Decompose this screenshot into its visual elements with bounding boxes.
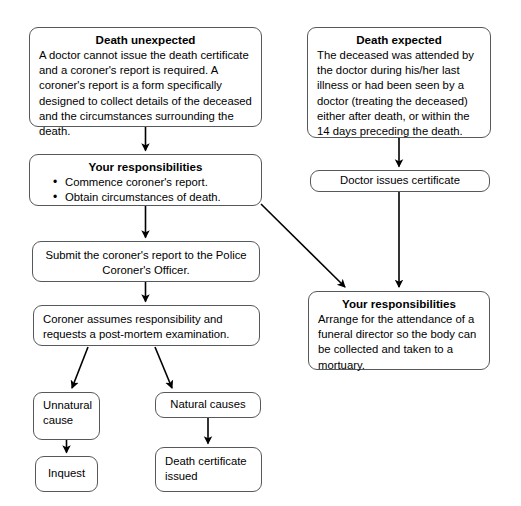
node-natural-causes-body: Natural causes [162,397,254,412]
node-death-expected: Death expected The deceased was attended… [307,27,491,138]
node-responsibilities-right-body: Arrange for the attendance of a funeral … [318,312,480,373]
node-doctor-issues-certificate: Doctor issues certificate [310,170,490,192]
node-unnatural-cause-body: Unnatural cause [43,398,90,428]
node-natural-causes: Natural causes [155,392,261,418]
node-responsibilities-left-bullets: Commence coroner's report. Obtain circum… [39,175,252,206]
node-responsibilities-right-title: Your responsibilities [318,296,480,312]
node-death-certificate-issued-body: Death certificate issued [165,454,252,484]
node-death-expected-body: The deceased was attended by the doctor … [317,48,481,139]
list-item: Obtain circumstances of death. [65,190,252,205]
node-inquest: Inquest [35,456,98,492]
node-submit-report: Submit the coroner's report to the Polic… [32,241,260,282]
node-death-expected-title: Death expected [317,32,481,48]
node-submit-report-body: Submit the coroner's report to the Polic… [42,248,250,278]
node-unnatural-cause: Unnatural cause [33,392,100,440]
node-death-unexpected-title: Death unexpected [39,32,252,48]
node-coroner-assumes-responsibility: Coroner assumes responsibility and reque… [33,305,260,346]
node-death-unexpected-body: A doctor cannot issue the death certific… [39,48,252,139]
node-coroner-assumes-responsibility-body: Coroner assumes responsibility and reque… [43,312,250,342]
edge-coroner-assumes-to-unnatural-cause [72,347,88,388]
node-responsibilities-left-title: Your responsibilities [39,159,252,175]
node-doctor-issues-certificate-body: Doctor issues certificate [317,173,483,188]
node-responsibilities-right: Your responsibilities Arrange for the at… [308,291,490,370]
edge-coroner-assumes-to-natural-causes [155,347,172,388]
edge-responsibilities-left-to-responsibilities-right [261,204,345,287]
node-death-certificate-issued: Death certificate issued [155,447,262,492]
list-item: Commence coroner's report. [65,175,252,190]
flowchart-diagram: Death unexpected A doctor cannot issue t… [0,0,521,506]
node-death-unexpected: Death unexpected A doctor cannot issue t… [29,27,262,127]
node-inquest-body: Inquest [45,466,88,481]
node-responsibilities-left: Your responsibilities Commence coroner's… [29,154,262,206]
